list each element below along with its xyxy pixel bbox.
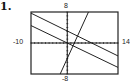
line-2: [31, 26, 118, 68]
line-1: [31, 13, 118, 56]
axes: [31, 12, 118, 74]
graph-window: [0, 0, 130, 82]
